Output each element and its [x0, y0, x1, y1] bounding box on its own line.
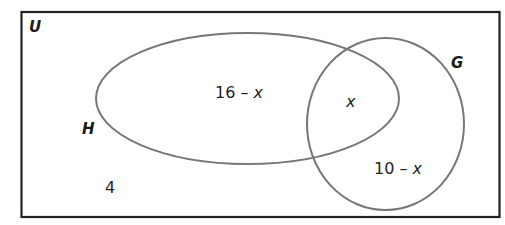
- venn-diagram: U H G 16 – x x 10 – x 4: [0, 0, 505, 225]
- region-g-only-label: 10 – x: [374, 159, 423, 178]
- region-g-only-variable: x: [412, 159, 423, 178]
- universal-set-rectangle: [22, 12, 500, 217]
- region-intersection-label: x: [345, 92, 356, 111]
- set-h-label: H: [82, 120, 95, 138]
- region-h-only-label: 16 – x: [215, 83, 264, 102]
- universal-set-label: U: [29, 18, 41, 36]
- set-g-label: G: [451, 54, 463, 72]
- region-g-only-constant: 10 –: [374, 159, 413, 178]
- region-h-only-variable: x: [253, 83, 264, 102]
- region-h-only-constant: 16 –: [215, 83, 254, 102]
- region-outside-label: 4: [105, 178, 115, 197]
